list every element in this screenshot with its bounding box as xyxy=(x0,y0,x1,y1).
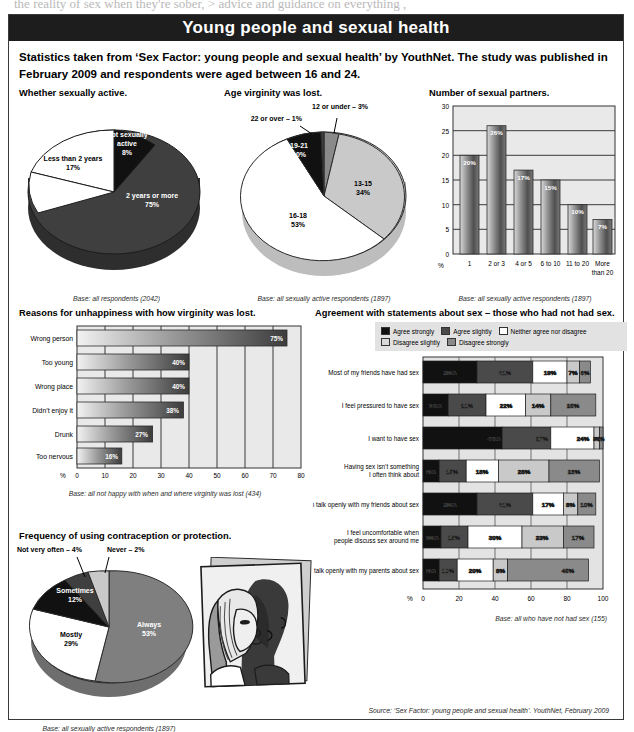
header-bar: Young people and sexual health xyxy=(9,15,623,41)
svg-text:22%: 22% xyxy=(500,402,513,409)
legend-label: Neither agree nor disagree xyxy=(511,328,587,335)
svg-text:8%: 8% xyxy=(566,501,575,508)
svg-text:21%: 21% xyxy=(461,402,474,409)
svg-text:2%: 2% xyxy=(598,437,605,442)
svg-text:14%: 14% xyxy=(532,402,545,409)
svg-text:10%: 10% xyxy=(442,567,455,574)
svg-text:Having sex isn’t something: Having sex isn’t something xyxy=(344,463,419,471)
svg-text:40: 40 xyxy=(491,595,499,602)
svg-text:18%: 18% xyxy=(476,468,489,475)
pie-1: 2 years or more75% Less than 2 years17% … xyxy=(19,100,214,295)
svg-text:20%: 20% xyxy=(463,159,476,166)
svg-text:31%: 31% xyxy=(499,501,512,508)
svg-text:100: 100 xyxy=(598,595,609,602)
legend-item-neither: Neither agree nor disagree xyxy=(499,327,587,335)
top-charts-row: Whether sexually active. 2 years or more… xyxy=(9,84,623,302)
legend-item-disagree-slightly: Disagree slightly xyxy=(381,338,440,346)
svg-text:30%: 30% xyxy=(444,501,457,508)
svg-text:More: More xyxy=(595,260,610,267)
svg-text:people discuss sex around me: people discuss sex around me xyxy=(334,537,420,545)
chart-title: Whether sexually active. xyxy=(19,88,214,98)
svg-text:7%: 7% xyxy=(569,369,578,376)
svg-text:9%: 9% xyxy=(427,468,436,475)
svg-text:7%: 7% xyxy=(598,223,607,230)
svg-text:Drunk: Drunk xyxy=(55,431,74,438)
pie-3-label-4: Never – 2% xyxy=(107,546,171,555)
pie-3-label-3: Not very often – 4% xyxy=(17,546,105,555)
svg-text:30: 30 xyxy=(442,103,450,110)
stacked-svg: 30%31%19%7%6% 14%21%22%14%25% 44%27%24%3… xyxy=(313,353,619,615)
svg-text:14%: 14% xyxy=(429,402,442,409)
svg-text:9%: 9% xyxy=(427,567,436,574)
intro-paragraph: Statistics taken from ‘Sex Factor: young… xyxy=(9,41,623,84)
chart-title: Number of sexual partners. xyxy=(429,88,623,98)
svg-text:28%: 28% xyxy=(568,468,581,475)
svg-text:10%: 10% xyxy=(426,534,439,541)
svg-text:Most of my friends have had se: Most of my friends have had sex xyxy=(328,369,419,377)
chart-base-note: Base: all not happy with when and where … xyxy=(19,490,311,497)
svg-text:60: 60 xyxy=(241,472,249,479)
couple-illustration-svg xyxy=(195,557,321,689)
svg-text:31%: 31% xyxy=(499,369,512,376)
svg-text:Too young: Too young xyxy=(42,359,74,367)
svg-text:28%: 28% xyxy=(518,468,531,475)
svg-text:40: 40 xyxy=(185,472,193,479)
chart-base-note: Base: all sexually active respondents (1… xyxy=(429,295,621,302)
svg-text:Too nervous: Too nervous xyxy=(36,453,74,460)
svg-text:15%: 15% xyxy=(446,468,459,475)
couple-illustration xyxy=(195,557,321,689)
chart-number-of-partners: Number of sexual partners. xyxy=(419,84,623,302)
pie-2-label-2: 19-2110% xyxy=(277,142,321,160)
svg-text:20: 20 xyxy=(129,472,137,479)
svg-text:6 to 10: 6 to 10 xyxy=(541,260,561,267)
chart-agreement-statements: Agreement with statements about sex – th… xyxy=(313,304,623,622)
legend-item-agree-slightly: Agree slightly xyxy=(441,327,491,335)
svg-text:30%: 30% xyxy=(489,534,502,541)
legend-swatch-icon xyxy=(441,327,450,335)
svg-text:4 or 5: 4 or 5 xyxy=(515,260,532,267)
page-bleed-text: the reality of sex when they're sober, >… xyxy=(14,0,614,14)
svg-text:20: 20 xyxy=(455,595,463,602)
svg-text:I can talk openly with my pare: I can talk openly with my parents about … xyxy=(313,567,420,575)
svg-text:15: 15 xyxy=(442,177,450,184)
hbar-svg: 75%40%40% 38%27%16% Wrong personToo youn… xyxy=(19,320,311,490)
svg-text:45%: 45% xyxy=(562,567,575,574)
pie-2-label-0: 13-1534% xyxy=(340,180,386,198)
legend-item-disagree-strongly: Disagree strongly xyxy=(447,338,509,346)
page-title: Young people and sexual health xyxy=(182,18,450,38)
chart-base-note: Base: all who have not had sex (155) xyxy=(313,615,623,622)
svg-text:10%: 10% xyxy=(580,501,593,508)
svg-text:20: 20 xyxy=(442,152,450,159)
svg-text:30%: 30% xyxy=(444,369,457,376)
pie-1-label-2: Not sexuallyactive8% xyxy=(103,131,151,157)
svg-text:10: 10 xyxy=(101,472,109,479)
pie-2: 12 or under – 3% 22 or over – 1% 19-2110… xyxy=(224,100,419,295)
chart-base-note: Base: all respondents (2042) xyxy=(19,295,214,302)
source-note: Source: ‘Sex Factor: young people and se… xyxy=(368,707,623,714)
svg-text:30: 30 xyxy=(157,472,165,479)
svg-text:16%: 16% xyxy=(105,453,118,460)
svg-text:27%: 27% xyxy=(135,431,148,438)
legend-item-agree-strongly: Agree strongly xyxy=(381,327,434,335)
svg-text:40%: 40% xyxy=(172,359,185,366)
pie-2-label-1: 16-1853% xyxy=(274,212,322,230)
legend-swatch-icon xyxy=(499,327,508,335)
svg-text:17%: 17% xyxy=(542,501,555,508)
svg-text:15%: 15% xyxy=(544,184,557,191)
svg-text:40%: 40% xyxy=(172,383,185,390)
svg-text:17%: 17% xyxy=(572,534,585,541)
svg-text:11 to 20: 11 to 20 xyxy=(566,260,589,267)
pie-2-label-4: 12 or under – 3% xyxy=(312,103,408,112)
svg-text:I want to have sex: I want to have sex xyxy=(368,435,420,442)
legend-swatch-icon xyxy=(381,327,390,335)
svg-text:Didn’t enjoy it: Didn’t enjoy it xyxy=(32,407,73,415)
svg-text:25%: 25% xyxy=(567,402,580,409)
chart-base-note: Base: all sexually active respondents (1… xyxy=(224,295,424,302)
pie-3-svg xyxy=(19,543,199,703)
chart-title: Reasons for unhappiness with how virgini… xyxy=(19,308,313,318)
svg-text:70: 70 xyxy=(269,472,277,479)
svg-text:Wrong place: Wrong place xyxy=(35,383,73,391)
svg-text:I often think about: I often think about xyxy=(369,471,419,478)
svg-text:80: 80 xyxy=(297,472,305,479)
chart-base-note: Base: all sexually active respondents (1… xyxy=(19,725,199,732)
